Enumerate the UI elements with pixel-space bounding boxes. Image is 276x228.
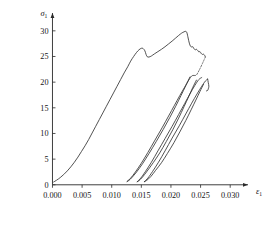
y-axis-arrow-icon	[51, 13, 55, 18]
y-axis-tick-label: 30	[40, 27, 48, 36]
data-curve-transition-dashed	[194, 57, 205, 76]
x-axis-tick-label: 0.015	[132, 191, 150, 200]
axes-group	[51, 13, 248, 187]
y-axis-tick-label: 5	[44, 155, 48, 164]
x-axis-tick-label: 0.025	[191, 191, 209, 200]
y-axis-title-subscript: 1	[45, 13, 48, 19]
data-curves-group	[54, 31, 209, 182]
stress-strain-chart-figure: 0.0000.0050.0100.0150.0200.0250.03005101…	[0, 0, 276, 228]
data-curve-reload-cycle-1	[127, 75, 194, 181]
y-axis-tick-label: 20	[40, 78, 48, 87]
y-axis-tick-label: 15	[40, 104, 48, 113]
x-axis-tick-label: 0.005	[73, 191, 91, 200]
x-axis-tick-label: 0.000	[43, 191, 61, 200]
x-axis-tick-label: 0.010	[103, 191, 121, 200]
x-axis-title: ε1	[256, 187, 262, 197]
y-axis-tick-label: 10	[40, 129, 48, 138]
x-axis-tick-label: 0.030	[221, 191, 239, 200]
axis-titles-group: ε1σ1	[40, 9, 262, 197]
x-axis-tick-label: 0.020	[162, 191, 180, 200]
data-curve-reload-cycle-2	[137, 78, 202, 182]
y-axis-tick-label: 25	[40, 52, 48, 61]
chart-plot-area: 0.0000.0050.0100.0150.0200.0250.03005101…	[0, 0, 276, 228]
data-curve-unload-cycle-2	[137, 80, 196, 182]
tick-labels-group: 0.0000.0050.0100.0150.0200.0250.03005101…	[40, 27, 239, 200]
data-curve-unload-cycle-1	[127, 77, 190, 181]
data-curve-final-descent	[207, 79, 209, 91]
y-axis-tick-label: 0	[44, 181, 48, 190]
x-axis-arrow-icon	[243, 183, 248, 187]
x-axis-title-subscript: 1	[259, 191, 262, 197]
y-axis-title: σ1	[40, 9, 47, 19]
